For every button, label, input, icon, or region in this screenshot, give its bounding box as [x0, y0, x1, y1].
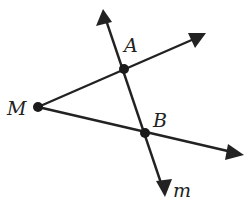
point-A [119, 64, 129, 74]
label-m: m [173, 179, 191, 201]
line-m-arrow-down-icon [156, 179, 172, 197]
point-B [140, 128, 150, 138]
label-M: M [6, 97, 27, 119]
ray-MB-segment [38, 107, 232, 152]
ray-MB-arrow-icon [225, 144, 244, 160]
geometry-diagram: M A B m [0, 0, 245, 206]
label-B: B [152, 109, 167, 131]
point-M [33, 102, 43, 112]
line-m-arrow-up-icon [96, 9, 112, 26]
label-A: A [122, 34, 138, 56]
